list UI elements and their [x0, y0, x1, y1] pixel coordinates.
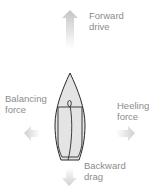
heeling-arrow-icon: [116, 126, 135, 141]
backward-drag-label: Backward drag: [84, 160, 126, 182]
forward-drive-label: Forward drive: [89, 10, 124, 32]
heeling-force-label: Heeling force: [117, 100, 149, 122]
backward-arrow-icon: [62, 168, 77, 186]
boat-hull-icon: [55, 73, 85, 160]
balancing-force-label: Balancing force: [5, 93, 47, 115]
forward-arrow-icon: [62, 10, 78, 48]
balancing-arrow-icon: [24, 126, 40, 141]
